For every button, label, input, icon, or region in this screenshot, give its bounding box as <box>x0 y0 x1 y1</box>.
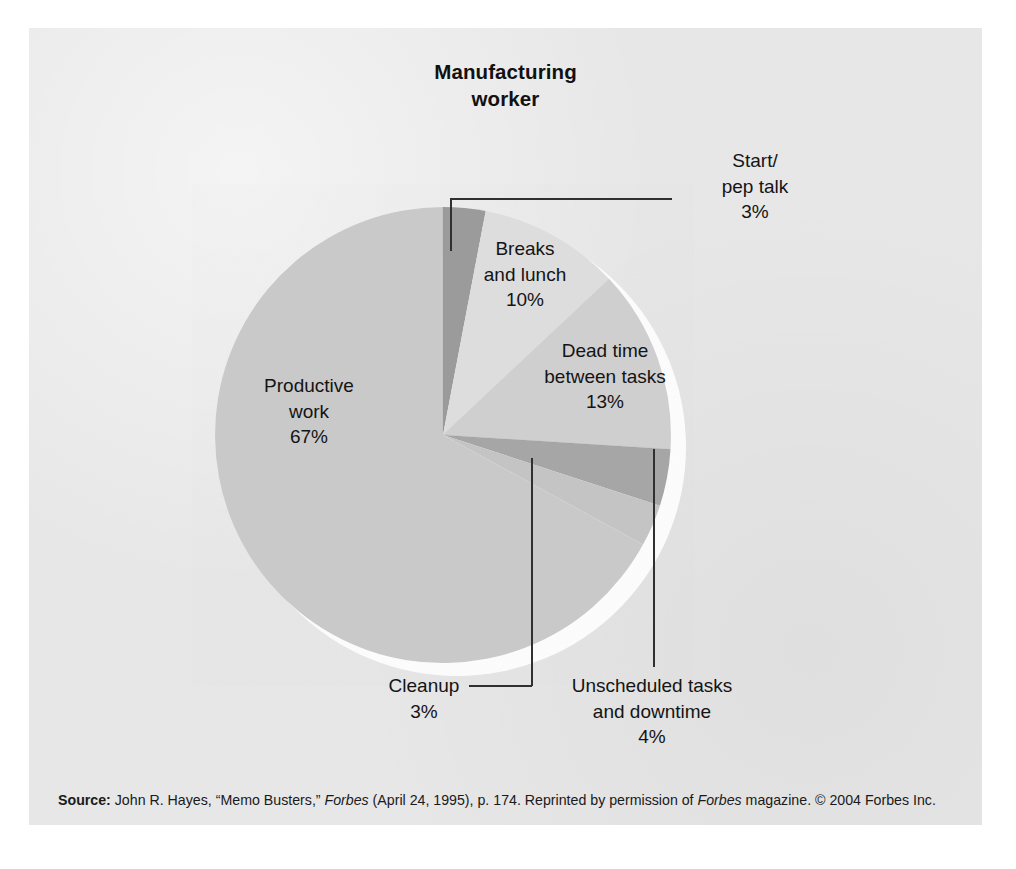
source-label: Source: <box>58 792 111 808</box>
callout-cleanup: Cleanup 3% <box>359 673 489 724</box>
slice-label-dead-line2: between tasks <box>490 364 720 390</box>
slice-label-dead-line1: Dead time <box>490 338 720 364</box>
slice-label-breaks-and-lunch: Breaks and lunch 10% <box>440 236 610 313</box>
callout-start-line1: Start/ <box>680 148 830 174</box>
source-publication-1: Forbes <box>325 792 369 808</box>
slice-label-productive-line1: Productive <box>224 373 394 399</box>
source-note: Source: John R. Hayes, “Memo Busters,” F… <box>58 790 998 811</box>
callout-unscheduled-line2: and downtime <box>532 699 772 725</box>
callout-start-line2: pep talk <box>680 174 830 200</box>
callout-cleanup-line1: Cleanup <box>359 673 489 699</box>
slice-label-breaks-line1: Breaks <box>440 236 610 262</box>
slice-label-productive-work: Productive work 67% <box>224 373 394 450</box>
leader-line-unscheduled-vertical <box>653 449 655 667</box>
slice-label-dead-time: Dead time between tasks 13% <box>490 338 720 415</box>
callout-unscheduled-tasks: Unscheduled tasks and downtime 4% <box>532 673 772 750</box>
slice-label-productive-percent: 67% <box>224 424 394 450</box>
slice-label-productive-line2: work <box>224 399 394 425</box>
leader-line-start-horizontal <box>450 198 672 200</box>
callout-start-pep-talk: Start/ pep talk 3% <box>680 148 830 225</box>
source-text-3: magazine. © 2004 Forbes Inc. <box>742 792 936 808</box>
source-publication-2: Forbes <box>698 792 742 808</box>
source-text-1: John R. Hayes, “Memo Busters,” <box>111 792 325 808</box>
chart-panel: Manufacturing worker <box>29 28 982 825</box>
slice-label-breaks-percent: 10% <box>440 287 610 313</box>
callout-start-percent: 3% <box>680 199 830 225</box>
pie-chart: Productive work 67% Breaks and lunch 10%… <box>29 28 982 825</box>
leader-line-cleanup-vertical <box>531 458 533 686</box>
source-text-2: (April 24, 1995), p. 174. Reprinted by p… <box>369 792 698 808</box>
callout-cleanup-percent: 3% <box>359 699 489 725</box>
callout-unscheduled-line1: Unscheduled tasks <box>532 673 772 699</box>
callout-unscheduled-percent: 4% <box>532 724 772 750</box>
figure-container: Manufacturing worker <box>0 0 1016 869</box>
pie-svg <box>29 28 982 825</box>
leader-line-start-vertical <box>450 198 452 251</box>
slice-label-breaks-line2: and lunch <box>440 262 610 288</box>
slice-label-dead-percent: 13% <box>490 389 720 415</box>
